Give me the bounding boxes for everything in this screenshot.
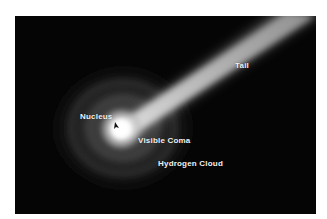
label-nucleus: Nucleus: [80, 112, 113, 121]
label-tail: Tail: [235, 61, 249, 70]
comet-diagram-panel: Nucleus Visible Coma Hydrogen Cloud Tail: [15, 16, 316, 214]
label-hydrogen-cloud: Hydrogen Cloud: [158, 159, 223, 168]
comet-illustration: [15, 16, 316, 214]
label-visible-coma: Visible Coma: [138, 136, 191, 145]
